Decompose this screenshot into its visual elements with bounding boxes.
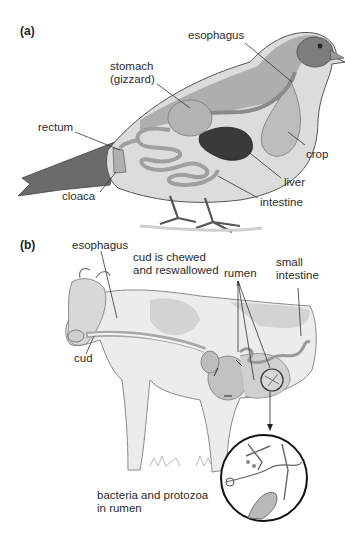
label-cow-cud-chewed-line2: and reswallowed [133, 264, 219, 277]
label-bird-rectum: rectum [38, 121, 73, 134]
label-cow-cud: cud [74, 352, 93, 365]
digestive-systems-figure: (a) (b) esophagus stomach (gizzard) rect… [0, 0, 345, 533]
label-cow-cud-chewed-line1: cud is chewed [133, 251, 219, 264]
label-bird-cloaca: cloaca [62, 190, 95, 203]
label-bird-liver: liver [284, 176, 305, 189]
label-cow-bacteria-line1: bacteria and protozoa [97, 489, 208, 502]
label-bird-stomach: stomach (gizzard) [110, 60, 155, 86]
label-cow-bacteria: bacteria and protozoa in rumen [97, 489, 208, 515]
label-cow-small-intestine-line2: intestine [276, 269, 319, 282]
panel-a-tag: (a) [20, 24, 35, 38]
label-bird-stomach-line1: stomach [110, 60, 155, 73]
cow-illustration [66, 268, 317, 521]
label-bird-crop: crop [306, 148, 328, 161]
panel-b-tag: (b) [20, 238, 35, 252]
label-cow-rumen: rumen [224, 267, 257, 280]
label-cow-small-intestine-line1: small [276, 256, 319, 269]
label-bird-intestine: intestine [260, 196, 303, 209]
label-cow-bacteria-line2: in rumen [97, 502, 208, 515]
label-cow-cud-chewed: cud is chewed and reswallowed [133, 251, 219, 277]
label-cow-esophagus: esophagus [72, 239, 128, 252]
label-cow-small-intestine: small intestine [276, 256, 319, 282]
magnified-rumen-microbes [221, 435, 307, 521]
label-bird-esophagus: esophagus [188, 29, 244, 42]
label-bird-stomach-line2: (gizzard) [110, 73, 155, 86]
